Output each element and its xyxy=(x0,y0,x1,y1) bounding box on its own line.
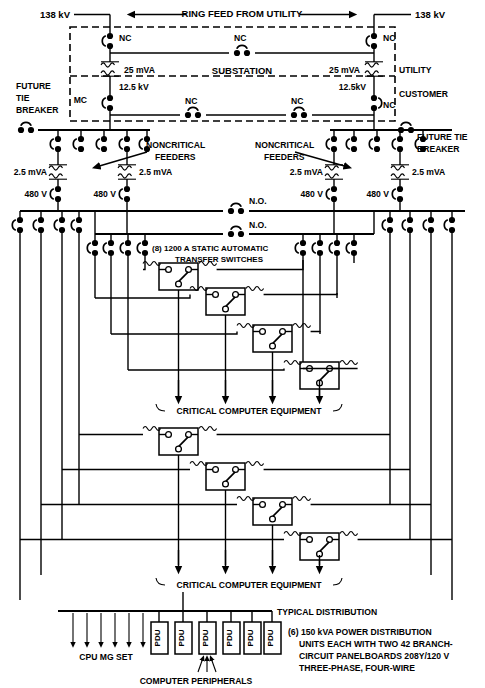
voltage-label-480v-d: 480 V xyxy=(367,189,390,199)
transfer-switch-3[interactable] xyxy=(111,324,320,399)
breaker-nc-hv-left[interactable] xyxy=(102,33,113,49)
lv-breaker-r2[interactable] xyxy=(402,217,413,233)
lv-outgoing-breakers-left xyxy=(12,211,82,233)
voltage-label-480v-b: 480 V xyxy=(94,189,117,199)
ats-source-breaker-r2[interactable] xyxy=(312,240,323,256)
utility-label: UTILITY xyxy=(399,65,432,75)
pdu-note-block: (6) 150 kVA POWER DISTRIBUTION UNITS EAC… xyxy=(288,627,453,673)
breaker-nc-hv-right[interactable] xyxy=(366,33,377,49)
breaker-mc-left[interactable] xyxy=(102,95,113,111)
lv-breaker-l2[interactable] xyxy=(33,217,44,233)
pdu-unit-2[interactable]: PDU xyxy=(175,611,192,654)
breaker-nc-hv-tie[interactable] xyxy=(234,45,250,56)
ats-source-breaker-l3[interactable] xyxy=(120,240,131,256)
feeder-risers-outer-left xyxy=(20,230,79,600)
transformer-2-5mva-c-label: 2.5 mVA xyxy=(290,167,323,177)
transformer-2-5mva-b-label: 2.5 mVA xyxy=(139,167,172,177)
voltage-label-12-5kv-left: 12.5 kV xyxy=(119,82,149,92)
lv-breaker-l3[interactable] xyxy=(54,217,65,233)
mv-feeder-breaker-l3[interactable] xyxy=(96,136,107,152)
fuse-ats6-right xyxy=(246,462,264,466)
breaker-nc-mv-tie-2[interactable] xyxy=(291,107,307,118)
cpu-mg-set-label: CPU MG SET xyxy=(79,652,133,662)
transfer-switch-4[interactable] xyxy=(128,361,358,399)
future-tie-breaker-left-line1: FUTURE xyxy=(16,81,51,91)
tie-breaker-no-lower[interactable] xyxy=(228,226,244,237)
breaker-nc-mv-tie-1[interactable] xyxy=(185,107,201,118)
pdu-unit-5[interactable]: PDU xyxy=(244,611,261,654)
mv-feeder-breaker-r3[interactable] xyxy=(369,136,380,152)
transfer-switch-6[interactable] xyxy=(62,462,410,566)
computer-peripherals-label: COMPUTER PERIPHERALS xyxy=(140,676,253,686)
fuse-ats2-right xyxy=(246,287,264,291)
ats-source-breaker-r4[interactable] xyxy=(346,240,357,256)
lv-breaker-l1[interactable] xyxy=(12,217,23,233)
transformer-25mva-right-label: 25 mVA xyxy=(329,65,360,75)
breaker-nc-hv-tie-label: NC xyxy=(234,33,246,43)
noncritical-feeders-left-line2: FEEDERS xyxy=(155,152,196,162)
computer-peripherals-arrows xyxy=(198,658,216,672)
breaker-nc-mv-right[interactable] xyxy=(371,95,382,111)
ring-feed-header: 138 kV 138 kV RING FEED FROM UTILITY xyxy=(40,8,446,36)
transfer-switch-5[interactable] xyxy=(79,427,390,566)
breaker-480v-a[interactable] xyxy=(50,186,61,202)
transfer-switch-7[interactable] xyxy=(41,497,431,566)
critical-equipment-label-lower-group: CRITICAL COMPUTER EQUIPMENT xyxy=(156,578,342,590)
mv-feeder-breaker-r2[interactable] xyxy=(346,136,357,152)
customer-label: CUSTOMER xyxy=(399,89,449,99)
tie-breaker-no-upper[interactable] xyxy=(228,203,244,214)
ats-title-line1: (8) 1200 A STATIC AUTOMATIC xyxy=(152,244,269,253)
fuse-ats5-right xyxy=(199,427,217,431)
lv-breaker-l4[interactable] xyxy=(71,217,82,233)
mv-feeder-breakers-left xyxy=(50,130,150,152)
breaker-480v-c[interactable] xyxy=(326,186,337,202)
pdu-note-line2: UNITS EACH WITH TWO 42 BRANCH- xyxy=(299,639,453,649)
critical-equipment-label-upper: CRITICAL COMPUTER EQUIPMENT xyxy=(177,406,323,416)
breaker-nc-mv-tie-2-label: NC xyxy=(291,96,303,106)
ats-source-breaker-r1[interactable] xyxy=(295,240,306,256)
lv-breaker-r3[interactable] xyxy=(423,217,434,233)
fuse-ats6-left xyxy=(190,462,208,466)
pdu-label-4: PDU xyxy=(225,629,234,646)
mv-feeder-breaker-l2[interactable] xyxy=(73,136,84,152)
tie-breaker-no-lower-label: N.O. xyxy=(249,220,267,230)
pdu-label-3: PDU xyxy=(201,629,210,646)
fuse-ats4-right xyxy=(340,361,358,365)
transformer-25mva-left xyxy=(101,62,119,76)
mv-feeder-breaker-l1[interactable] xyxy=(50,136,61,152)
fuse-ats8-left xyxy=(284,532,302,536)
transformer-25mva-right xyxy=(365,62,383,76)
voltage-label-12-5kv-right: 12.5kV xyxy=(339,82,367,92)
mv-bus-section: 12.5 kV 12.5kV MC NC NC NC xyxy=(74,82,396,130)
transfer-switch-8[interactable] xyxy=(20,532,452,566)
ring-feed-label: RING FEED FROM UTILITY xyxy=(182,8,304,19)
pdu-unit-1[interactable]: PDU xyxy=(151,611,168,654)
noncritical-feeders-left-annotation: NONCRITICAL FEEDERS xyxy=(96,140,205,167)
breaker-nc-mv-right-label: NC xyxy=(383,100,395,110)
mv-feeder-breaker-l4[interactable] xyxy=(119,136,130,152)
mv-feeder-breaker-r1[interactable] xyxy=(326,136,337,152)
pdu-group: PDU PDU PDU PDU PDU xyxy=(151,611,281,654)
breaker-nc-hv-left-label: NC xyxy=(119,33,131,43)
ats-source-breaker-l4[interactable] xyxy=(137,240,148,256)
breaker-480v-b[interactable] xyxy=(119,186,130,202)
pdu-unit-4[interactable]: PDU xyxy=(223,611,240,654)
ats-source-breaker-l1[interactable] xyxy=(87,240,98,256)
lv-breaker-r1[interactable] xyxy=(382,217,393,233)
pdu-unit-3[interactable]: PDU xyxy=(199,611,216,654)
future-tie-breaker-left[interactable] xyxy=(18,122,34,133)
typical-distribution-section: TYPICAL DISTRIBUTION CPU MG SET PDU PDU xyxy=(58,592,453,686)
one-line-diagram: 138 kV 138 kV RING FEED FROM UTILITY SUB… xyxy=(0,0,485,688)
pdu-unit-6[interactable]: PDU xyxy=(264,611,281,654)
breaker-mc-label: MC xyxy=(74,95,87,105)
lv-breaker-r4[interactable] xyxy=(444,217,455,233)
mv-feeder-breakers-right xyxy=(326,130,426,152)
ats-source-breaker-r3[interactable] xyxy=(329,240,340,256)
breaker-480v-d[interactable] xyxy=(392,186,403,202)
ats-source-breaker-l2[interactable] xyxy=(103,240,114,256)
transformer-2-5mva-c xyxy=(325,165,343,179)
voltage-label-138kv-left: 138 kV xyxy=(40,9,71,20)
mv-feeder-breaker-r4[interactable] xyxy=(392,136,403,152)
fuse-ats4-left xyxy=(284,361,302,365)
voltage-label-480v-a: 480 V xyxy=(25,189,48,199)
